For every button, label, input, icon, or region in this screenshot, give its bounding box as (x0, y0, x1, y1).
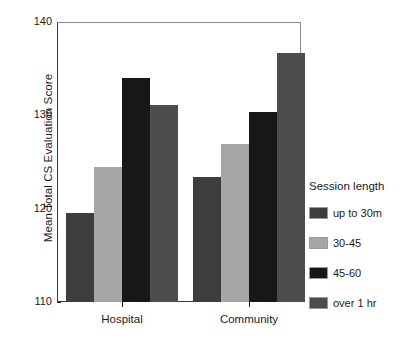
bar (94, 167, 122, 302)
legend-title: Session length (309, 180, 404, 192)
x-axis-group-label: Community (194, 313, 304, 325)
y-tick-label: 140 (8, 15, 52, 27)
bar (277, 53, 305, 302)
legend-item[interactable]: over 1 hr (309, 296, 404, 310)
bar (150, 105, 178, 302)
legend-item-label: up to 30m (333, 207, 382, 219)
legend-swatch-icon (309, 267, 328, 279)
x-tick-mark (249, 302, 250, 307)
legend-item-label: 30-45 (333, 237, 361, 249)
y-tick-label: 130 (8, 108, 52, 120)
bar (122, 78, 150, 302)
legend-item[interactable]: up to 30m (309, 206, 404, 220)
legend-item[interactable]: 30-45 (309, 236, 404, 250)
plot-area (57, 22, 301, 302)
bar (193, 177, 221, 302)
legend-swatch-icon (309, 207, 328, 219)
legend: Session length up to 30m30-4545-60over 1… (309, 180, 404, 326)
y-tick-label: 120 (8, 202, 52, 214)
bar-chart-figure: Mean Total CS Evaluation Score 110120130… (0, 0, 404, 343)
legend-items: up to 30m30-4545-60over 1 hr (309, 206, 404, 310)
legend-swatch-icon (309, 297, 328, 309)
y-tick-mark (57, 302, 61, 303)
legend-swatch-icon (309, 237, 328, 249)
legend-item-label: over 1 hr (333, 297, 376, 309)
bar (249, 112, 277, 302)
bar (66, 213, 94, 302)
y-axis-title: Mean Total CS Evaluation Score (42, 33, 54, 283)
legend-item-label: 45-60 (333, 267, 361, 279)
bar (221, 144, 249, 302)
legend-item[interactable]: 45-60 (309, 266, 404, 280)
x-tick-mark (122, 302, 123, 307)
x-axis-group-label: Hospital (67, 313, 177, 325)
y-tick-label: 110 (8, 295, 52, 307)
